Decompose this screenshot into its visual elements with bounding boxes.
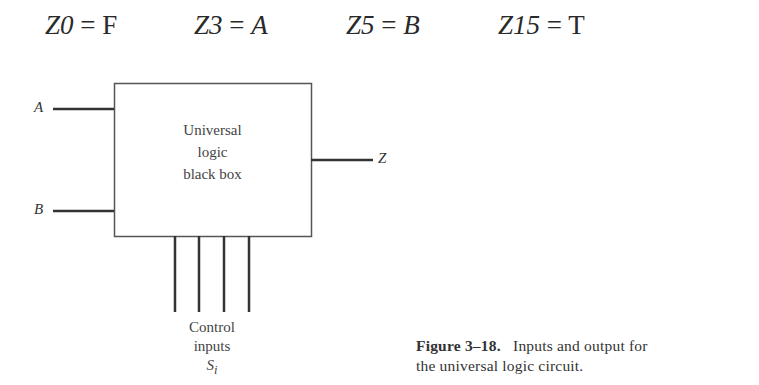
box-label-line: black box xyxy=(114,163,311,185)
input-label-a: A xyxy=(34,99,43,116)
control-inputs-label: Control inputs Si xyxy=(162,318,262,380)
caption-text-line2: the universal logic circuit. xyxy=(416,356,648,376)
figure-caption: Figure 3–18. Inputs and output for the u… xyxy=(416,336,648,376)
box-label-line: Universal xyxy=(114,119,311,141)
control-label-line: Control xyxy=(162,318,262,337)
box-label: Universal logic black box xyxy=(114,119,311,185)
control-subscript: i xyxy=(214,363,217,377)
caption-label: Figure 3–18. xyxy=(416,337,501,354)
input-label-b: B xyxy=(34,201,43,218)
logic-diagram xyxy=(0,0,759,385)
control-symbol: Si xyxy=(162,356,262,380)
control-label-line: inputs xyxy=(162,337,262,356)
caption-text-line1: Inputs and output for xyxy=(513,337,648,354)
control-symbol-s: S xyxy=(207,357,215,373)
output-label-z: Z xyxy=(378,150,386,167)
box-label-line: logic xyxy=(114,141,311,163)
